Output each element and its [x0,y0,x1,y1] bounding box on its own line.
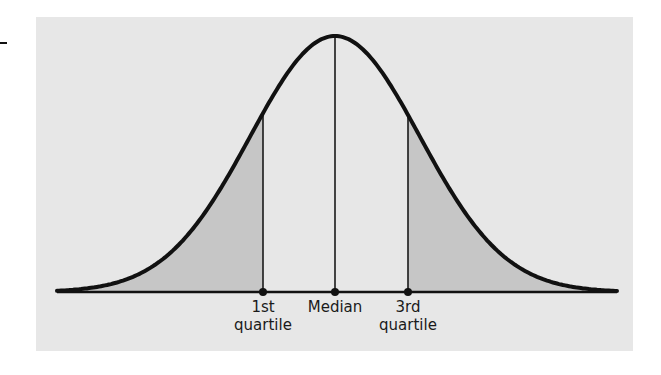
first-quartile-label: 1st quartile [234,298,292,334]
median-label-text: Median [308,298,363,316]
first-quartile-marker [259,288,267,296]
first-quartile-label-line1: 1st [234,298,292,316]
third-quartile-label-line1: 3rd [379,298,437,316]
first-quartile-label-line2: quartile [234,316,292,334]
bell-curve-diagram [0,0,661,375]
normal-distribution-curve [57,36,617,291]
median-marker [331,288,339,296]
third-quartile-label: 3rd quartile [379,298,437,334]
third-quartile-marker [404,288,412,296]
lower-tail-shaded-region [57,113,263,292]
third-quartile-label-line2: quartile [379,316,437,334]
median-label: Median [308,298,363,316]
